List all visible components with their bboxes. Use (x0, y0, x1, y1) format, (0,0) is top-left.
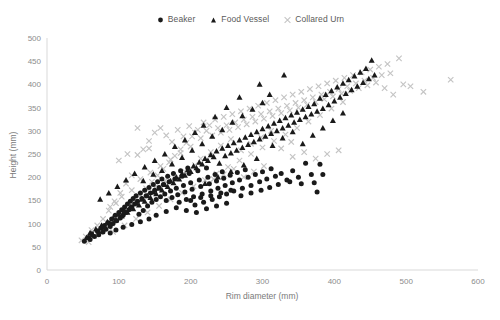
data-point (261, 163, 266, 168)
data-point (259, 188, 264, 193)
data-point (188, 198, 193, 203)
data-point (281, 72, 287, 78)
data-point (214, 148, 220, 154)
data-point (227, 127, 232, 132)
x-tick-label: 600 (471, 277, 485, 286)
x-tick-label: 100 (112, 277, 126, 286)
data-point (175, 192, 180, 197)
data-point (313, 156, 318, 161)
data-point (285, 122, 291, 128)
y-tick-label: 500 (28, 34, 42, 43)
data-point (190, 187, 195, 192)
data-point (212, 114, 218, 120)
data-point (363, 66, 369, 72)
data-point (142, 164, 148, 170)
data-point (290, 92, 295, 97)
data-point (310, 95, 315, 100)
data-point (181, 183, 186, 188)
data-point (199, 141, 205, 147)
data-point (223, 183, 228, 188)
data-point (136, 212, 141, 217)
data-point (315, 190, 320, 195)
data-point (314, 108, 320, 114)
data-point (248, 131, 254, 137)
data-point (224, 123, 229, 128)
data-point (376, 64, 381, 69)
data-point (129, 187, 134, 192)
data-point (162, 151, 168, 157)
data-point (254, 129, 260, 135)
data-point (257, 179, 262, 184)
data-point (129, 222, 134, 227)
data-point (290, 168, 295, 173)
data-point (240, 186, 245, 191)
data-point (287, 108, 292, 113)
data-point (368, 67, 373, 72)
data-point (230, 180, 235, 185)
data-point (312, 180, 317, 185)
data-point (113, 228, 118, 233)
data-point (278, 110, 283, 115)
data-point (138, 219, 143, 224)
data-point (147, 216, 152, 221)
data-point (235, 124, 240, 129)
data-point (388, 71, 393, 76)
data-point (291, 119, 297, 125)
data-point (239, 144, 245, 150)
data-point (382, 85, 387, 90)
data-point (296, 175, 301, 180)
data-point (260, 145, 265, 150)
data-point (100, 216, 105, 221)
data-point (215, 186, 220, 191)
data-point (205, 175, 210, 180)
data-point (194, 210, 199, 215)
data-point (145, 203, 150, 208)
data-point (373, 80, 378, 85)
data-point (251, 139, 257, 145)
data-point (220, 169, 225, 174)
data-point (177, 200, 182, 205)
data-point (158, 125, 163, 130)
data-point (141, 147, 146, 152)
data-point (135, 152, 140, 157)
data-point (246, 175, 251, 180)
data-point (309, 172, 314, 177)
x-tick-label: 200 (184, 277, 198, 286)
data-point (269, 166, 274, 171)
data-point (243, 167, 248, 172)
x-axis-tick-labels: 0100200300400500600 (45, 277, 485, 286)
data-point (278, 146, 283, 151)
data-point (155, 173, 160, 178)
data-point (391, 92, 396, 97)
data-point (324, 151, 329, 156)
data-point (182, 190, 187, 195)
data-point (152, 130, 157, 135)
data-point (365, 83, 370, 88)
data-point (169, 139, 174, 144)
data-point (288, 112, 294, 118)
data-point (198, 184, 203, 189)
data-point (188, 180, 193, 185)
data-point (271, 138, 276, 143)
data-point (254, 156, 260, 162)
data-point (267, 109, 272, 114)
data-point (262, 133, 268, 139)
y-tick-label: 150 (28, 196, 42, 205)
data-point (215, 125, 220, 130)
data-point (255, 103, 260, 108)
data-point (149, 200, 154, 205)
data-point (308, 111, 314, 117)
data-point (121, 225, 126, 230)
data-point (237, 94, 243, 100)
data-point (257, 81, 263, 87)
data-point (207, 123, 212, 128)
data-point (198, 195, 203, 200)
data-point (216, 160, 222, 166)
x-tick-label: 500 (399, 277, 413, 286)
data-point (192, 203, 197, 208)
data-point (448, 77, 453, 82)
data-point (204, 206, 209, 211)
data-point (276, 106, 281, 111)
data-point (235, 170, 240, 175)
series-points-collared-urn (79, 56, 454, 245)
